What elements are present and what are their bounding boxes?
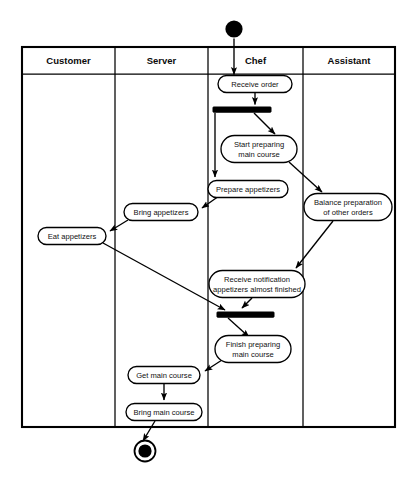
activity-prepare-appetizers-label: Prepare appetizers bbox=[216, 185, 280, 194]
activity-start-preparing-main-course[interactable]: Start preparing main course bbox=[221, 136, 297, 163]
initial-node bbox=[225, 20, 242, 37]
activity-get-main-course-label: Get main course bbox=[136, 371, 192, 380]
activity-receive-order[interactable]: Receive order bbox=[218, 76, 292, 93]
lane-header-assistant: Assistant bbox=[328, 55, 372, 66]
flow-fork-to-start-preparing bbox=[254, 113, 275, 134]
flow-eat-appetizers-to-join bbox=[103, 243, 225, 310]
activity-start-preparing-main-course-label-line2: main course bbox=[238, 150, 279, 159]
activity-receive-notification-label-line2: appetizers almost finished bbox=[213, 285, 301, 294]
flow-receive-notification-to-join bbox=[242, 298, 252, 308]
flow-join-to-finish-preparing bbox=[228, 318, 249, 337]
activity-balance-preparation-label-line1: Balance preparation bbox=[314, 198, 382, 207]
activity-get-main-course[interactable]: Get main course bbox=[128, 367, 200, 384]
join-bar bbox=[217, 312, 274, 317]
activity-prepare-appetizers[interactable]: Prepare appetizers bbox=[208, 181, 288, 198]
activity-finish-preparing-main-course[interactable]: Finish preparing main course bbox=[215, 336, 291, 363]
activity-receive-notification-label-line1: Receive notification bbox=[224, 275, 290, 284]
final-node bbox=[135, 441, 156, 462]
activity-finish-preparing-main-course-label-line2: main course bbox=[232, 350, 273, 359]
activity-bring-main-course[interactable]: Bring main course bbox=[126, 404, 202, 421]
activity-bring-main-course-label: Bring main course bbox=[133, 408, 194, 417]
activity-finish-preparing-main-course-label-line1: Finish preparing bbox=[226, 340, 280, 349]
lane-header-customer: Customer bbox=[46, 55, 91, 66]
lane-headers: Customer Server Chef Assistant bbox=[46, 55, 371, 66]
initial-node-dot bbox=[225, 20, 242, 37]
activity-balance-preparation[interactable]: Balance preparation of other orders bbox=[304, 194, 392, 221]
activity-receive-notification[interactable]: Receive notification appetizers almost f… bbox=[209, 271, 305, 298]
lane-header-server: Server bbox=[147, 55, 177, 66]
activity-bring-appetizers[interactable]: Bring appetizers bbox=[124, 204, 198, 221]
flow-balance-to-receive-notification bbox=[296, 221, 333, 268]
diagram-canvas: Customer Server Chef Assistant bbox=[0, 0, 415, 490]
activity-balance-preparation-label-line2: of other orders bbox=[323, 208, 373, 217]
activity-eat-appetizers-label: Eat appetizers bbox=[48, 232, 97, 241]
flow-bring-appetizers-to-eat-appetizers bbox=[110, 220, 128, 231]
activity-diagram: Customer Server Chef Assistant bbox=[0, 0, 415, 490]
fork-bar bbox=[213, 107, 271, 112]
activity-bring-appetizers-label: Bring appetizers bbox=[134, 208, 189, 217]
final-node-dot bbox=[138, 444, 151, 457]
flow-bring-main-course-to-end bbox=[143, 421, 155, 441]
activity-start-preparing-main-course-label-line1: Start preparing bbox=[234, 140, 284, 149]
activity-eat-appetizers[interactable]: Eat appetizers bbox=[38, 228, 106, 245]
lane-header-chef: Chef bbox=[245, 55, 267, 66]
flow-start-preparing-to-balance bbox=[289, 162, 322, 192]
activity-receive-order-label: Receive order bbox=[231, 80, 279, 89]
